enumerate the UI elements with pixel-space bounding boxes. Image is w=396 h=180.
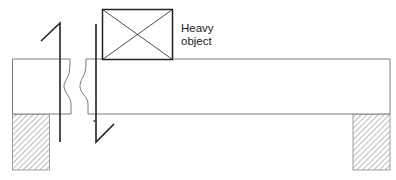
- label-line-2: object: [181, 35, 214, 48]
- beam-right-segment: [80, 59, 390, 114]
- right-support: [353, 114, 390, 170]
- heavy-object-box: [103, 10, 173, 60]
- heavy-object-label: Heavy object: [181, 22, 214, 48]
- label-line-1: Heavy: [181, 22, 214, 35]
- beam-left-segment: [13, 59, 72, 114]
- left-support: [13, 114, 50, 170]
